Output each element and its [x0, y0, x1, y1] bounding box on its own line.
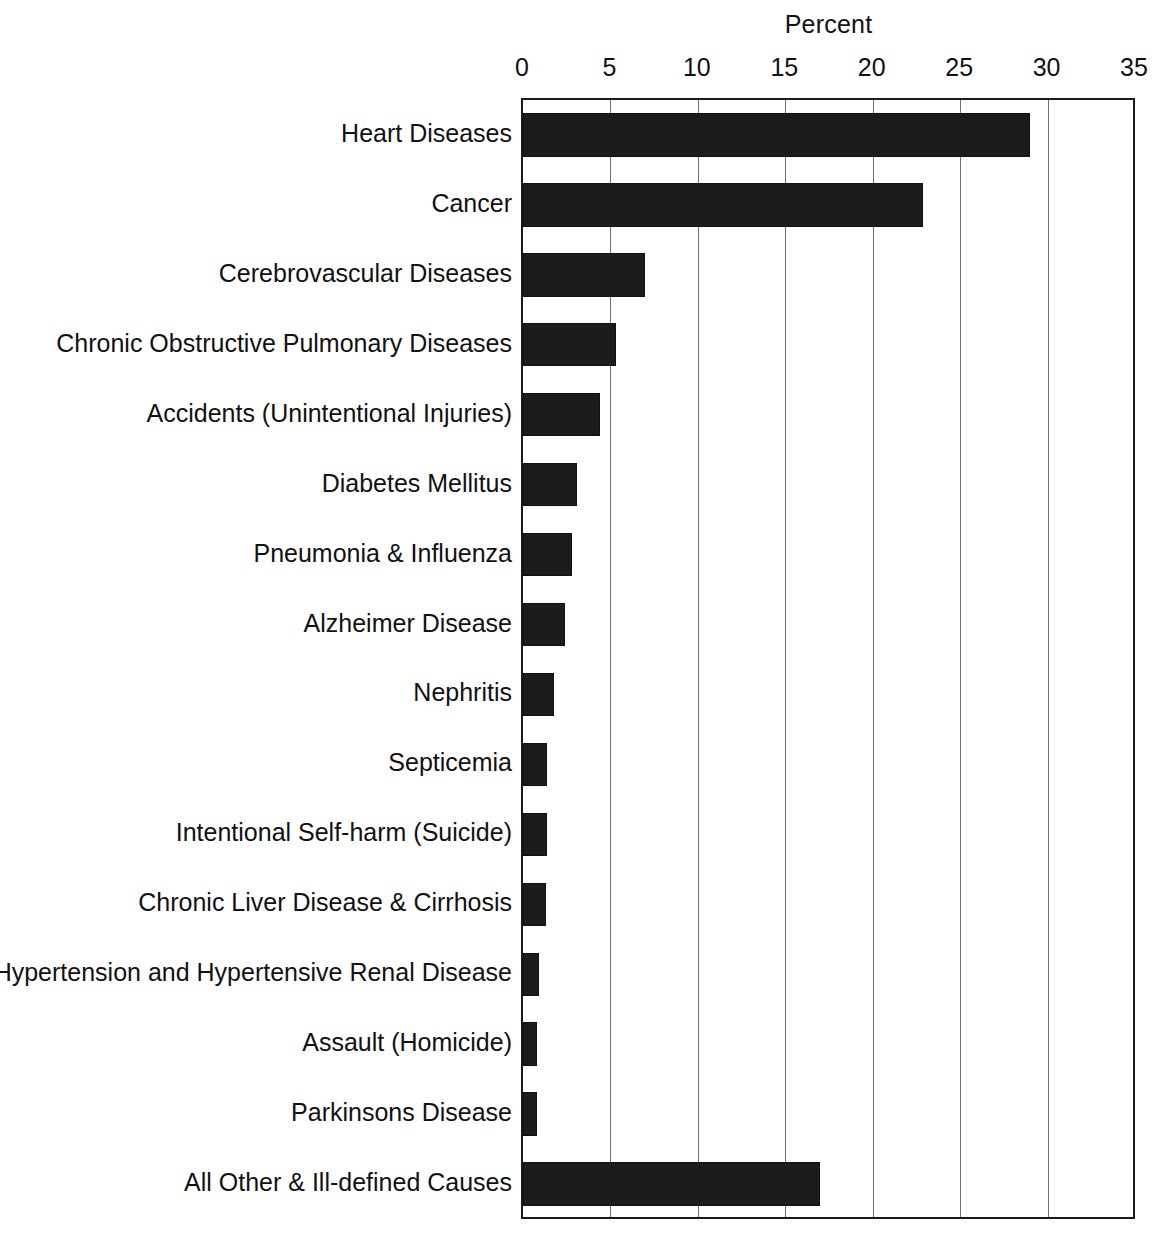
bar [523, 1162, 820, 1205]
category-label: Heart Diseases [341, 120, 512, 145]
category-label: Alzheimer Disease [304, 610, 512, 635]
bar [523, 533, 572, 576]
category-label: Assault (Homicide) [302, 1030, 512, 1055]
bar [523, 813, 547, 856]
bar [523, 673, 554, 716]
category-axis-labels: Heart DiseasesCancerCerebrovascular Dise… [0, 98, 512, 1219]
x-tick-label-0: 0 [515, 53, 529, 82]
x-axis-title: Percent [522, 10, 1135, 39]
x-tick-label-30: 30 [1033, 53, 1061, 82]
bar [523, 953, 539, 996]
category-label: Septicemia [388, 750, 512, 775]
bar [523, 183, 923, 226]
category-label: Cerebrovascular Diseases [219, 260, 512, 285]
category-label: Chronic Obstructive Pulmonary Diseases [56, 330, 512, 355]
x-axis-tick-labels: 05101520253035 [0, 53, 1168, 85]
bar [523, 883, 546, 926]
category-label: Hypertension and Hypertensive Renal Dise… [0, 960, 512, 985]
category-label: Chronic Liver Disease & Cirrhosis [138, 890, 512, 915]
bar [523, 253, 645, 296]
x-tick-label-20: 20 [858, 53, 886, 82]
category-label: All Other & Ill-defined Causes [184, 1170, 512, 1195]
category-label: Accidents (Unintentional Injuries) [147, 400, 512, 425]
bar-chart-figure: Percent 05101520253035 Heart DiseasesCan… [0, 0, 1168, 1248]
bar [523, 113, 1030, 156]
category-label: Diabetes Mellitus [322, 470, 512, 495]
category-label: Cancer [431, 190, 512, 215]
x-tick-label-25: 25 [945, 53, 973, 82]
bar [523, 1092, 537, 1135]
x-tick-label-35: 35 [1120, 53, 1148, 82]
bar [523, 463, 577, 506]
plot-area [521, 98, 1135, 1219]
bar [523, 743, 547, 786]
bar [523, 603, 565, 646]
category-label: Parkinsons Disease [291, 1100, 512, 1125]
bar [523, 323, 616, 366]
x-tick-label-15: 15 [770, 53, 798, 82]
bars-group [523, 100, 1133, 1217]
x-tick-label-10: 10 [683, 53, 711, 82]
x-tick-label-5: 5 [602, 53, 616, 82]
bar [523, 393, 600, 436]
category-label: Pneumonia & Influenza [253, 540, 512, 565]
category-label: Nephritis [413, 680, 512, 705]
bar [523, 1022, 537, 1065]
category-label: Intentional Self-harm (Suicide) [176, 820, 512, 845]
